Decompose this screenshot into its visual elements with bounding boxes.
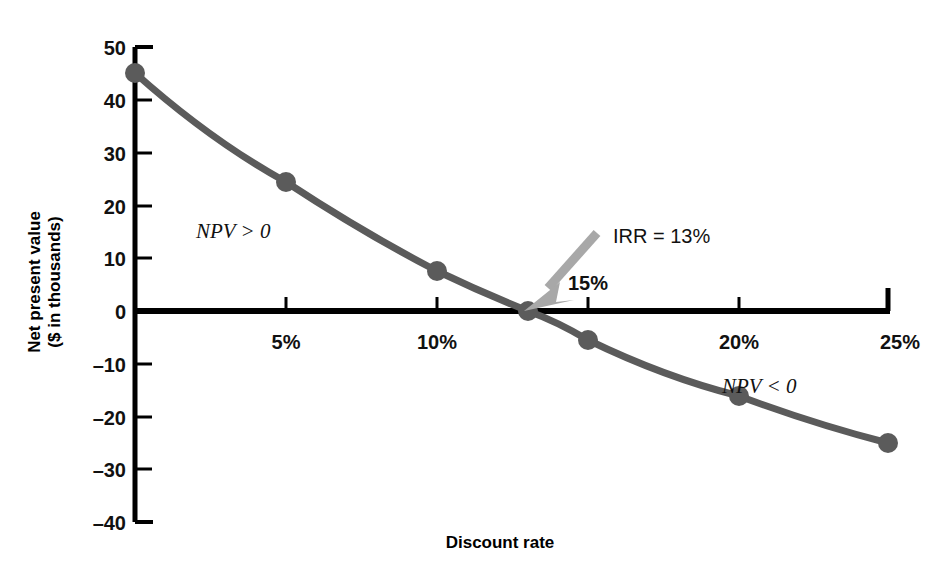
x-tick-label-25: 25% [880, 331, 920, 353]
x-tick-label-20: 20% [719, 331, 759, 353]
y-axis: 50 40 30 20 10 0 –10 –20 –30 –40 [93, 37, 153, 534]
npv-positive-label: NPV > 0 [195, 219, 271, 243]
y-tick-label-20: 20 [104, 196, 126, 218]
y-axis-title: Net present value ($ in thousands) [25, 211, 64, 353]
y-tick-label-minus-20: –20 [93, 407, 126, 429]
y-tick-label-minus-40: –40 [93, 512, 126, 534]
y-tick-label-50: 50 [104, 37, 126, 59]
x-tick-label-10: 10% [417, 331, 457, 353]
npv-negative-label: NPV < 0 [721, 374, 797, 398]
y-tick-label-0: 0 [115, 301, 126, 323]
x-tick-label-5: 5% [272, 331, 301, 353]
y-tick-label-10: 10 [104, 248, 126, 270]
data-point-5pct [276, 172, 296, 192]
chart-canvas: 50 40 30 20 10 0 –10 –20 –30 –40 5% 10% … [0, 0, 952, 580]
data-point-15pct [578, 330, 598, 350]
data-point-10pct [427, 261, 447, 281]
y-axis-title-line2: ($ in thousands) [45, 216, 64, 347]
npv-vs-discount-rate-chart: 50 40 30 20 10 0 –10 –20 –30 –40 5% 10% … [0, 0, 952, 580]
y-tick-label-minus-10: –10 [93, 354, 126, 376]
irr-callout-label: IRR = 13% [613, 225, 710, 247]
y-axis-title-line1: Net present value [25, 211, 44, 353]
y-tick-label-40: 40 [104, 90, 126, 112]
y-tick-label-30: 30 [104, 143, 126, 165]
y-tick-label-minus-30: –30 [93, 459, 126, 481]
x-tick-label-15: 15% [568, 272, 608, 294]
x-axis-title: Discount rate [446, 533, 555, 552]
data-point-0pct [125, 63, 145, 83]
data-point-25pct [878, 433, 898, 453]
